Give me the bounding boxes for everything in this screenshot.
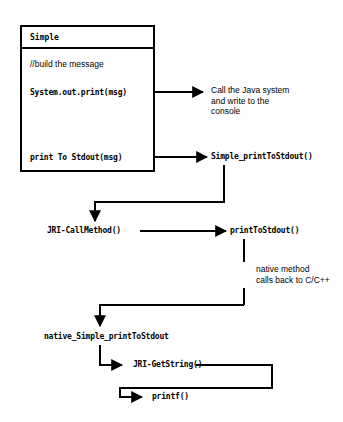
node-printtostdout: printToStdout() [230,226,299,236]
elbow-simple-to-jri-callmethod [95,165,224,221]
node-simple-printtostdout: Simple_printToStdout() [211,152,313,162]
class-name-label: Simple [30,33,59,42]
statement-system-out-print: System.out.print(msg) [30,88,127,97]
java-system-note: Call the Java system and write to the co… [211,85,289,117]
class-box-simple: Simple //build the message System.out.pr… [20,25,155,172]
native-callback-note: native method calls back to C/C++ [256,264,330,285]
node-jri-callmethod: JRI-CallMethod() [47,226,121,236]
java-system-note-line-2: and write to the [211,96,289,107]
java-system-note-line-1: Call the Java system [211,85,289,96]
elbow-native-simple-to-jri-getstring [100,345,122,365]
statement-print-to-stdout: print To Stdout(msg) [30,153,122,162]
java-system-note-line-3: console [211,106,289,117]
node-jri-getstring: JRI-GetString() [133,360,202,370]
native-callback-note-line-1: native method [256,264,330,275]
class-box-comment: //build the message [30,59,104,69]
native-callback-note-line-2: calls back to C/C++ [256,275,330,286]
call-flow-diagram: Simple //build the message System.out.pr… [0,0,343,422]
node-native-simple-printtostdout: native_Simple_printToStdout [44,332,169,342]
node-printf: printf() [152,392,189,402]
elbow-note-to-native-simple [100,305,244,326]
